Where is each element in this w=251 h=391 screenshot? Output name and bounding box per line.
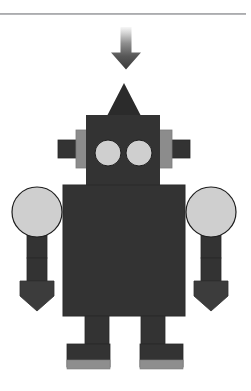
left-foot-sole-shape (67, 360, 110, 369)
right-eye-shape (126, 140, 152, 166)
right-arm-lower-shape (201, 258, 221, 281)
robot-illustration (0, 0, 251, 391)
left-eye-shape (95, 140, 121, 166)
left-shoulder-shape (12, 187, 62, 237)
right-leg-shape (141, 316, 165, 344)
right-shoulder-shape (186, 187, 236, 237)
antenna-triangle-shape (107, 83, 141, 116)
left-arm-lower-shape (27, 258, 47, 281)
screenshot-canvas (0, 0, 251, 391)
left-hand-shape (20, 281, 54, 311)
right-hand-shape (194, 281, 228, 311)
torso-shape (63, 185, 185, 316)
right-foot-sole-shape (140, 360, 183, 369)
left-leg-shape (85, 316, 109, 344)
